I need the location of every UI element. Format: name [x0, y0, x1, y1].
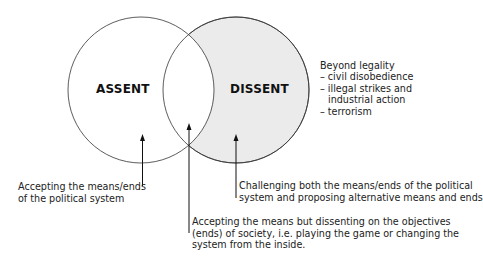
assent-annotation: Accepting the means/ends of the politica…: [18, 181, 146, 204]
assent-label: ASSENT: [96, 82, 150, 96]
dissent-annotation: Challenging both the means/ends of the p…: [239, 180, 483, 203]
overlap-annotation: Accepting the means but dissenting on th…: [192, 216, 459, 251]
dissent-label: DISSENT: [230, 82, 289, 96]
beyond-legality-item: industrial action: [320, 94, 413, 105]
beyond-legality-item: – terrorism: [320, 106, 413, 117]
beyond-legality-item: – illegal strikes and: [320, 83, 413, 94]
beyond-legality-heading: Beyond legality: [320, 60, 413, 71]
beyond-legality-item: – civil disobedience: [320, 71, 413, 82]
beyond-legality-list: Beyond legality – civil disobedience – i…: [320, 60, 413, 117]
